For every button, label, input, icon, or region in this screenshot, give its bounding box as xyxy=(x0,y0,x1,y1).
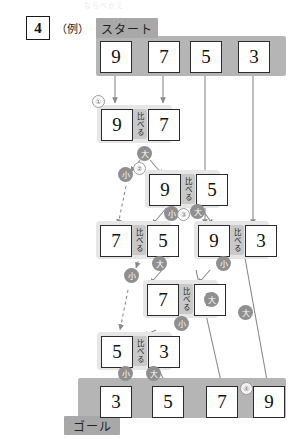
goal-cell-0: 3 xyxy=(100,386,132,418)
step-marker-2: ② xyxy=(133,162,146,175)
stage3a-compare-tab: 比べる xyxy=(131,225,146,255)
stage4-small-token-left: 小 xyxy=(124,268,139,283)
stage3a-big-token: 大 xyxy=(152,256,167,271)
stage3b-small-token: 小 xyxy=(216,256,231,271)
start-cell-3: 3 xyxy=(238,41,270,73)
step-marker-1: ① xyxy=(92,95,105,108)
stage5-small-token: 小 xyxy=(118,366,133,381)
stage2-compare-tab: 比べる xyxy=(180,174,195,204)
stage3a-compare-label: 比べる xyxy=(134,228,143,252)
stage3a-right-cell: 5 xyxy=(147,225,179,257)
goal-label: ゴール xyxy=(64,416,120,435)
stage5-big-token: 大 xyxy=(146,366,161,381)
stage1-left-cell: 9 xyxy=(101,109,133,141)
stage3a-left-cell: 7 xyxy=(100,225,132,257)
stage2-left-cell: 9 xyxy=(149,174,181,206)
stage5-left-cell: 5 xyxy=(101,336,133,368)
goal-cell-3: 9 xyxy=(253,386,285,418)
stage5-compare-label: 比べる xyxy=(135,339,144,363)
stage5-right-cell: 3 xyxy=(148,336,180,368)
stage4-left-cell: 7 xyxy=(147,284,179,316)
stage2-big-token: 大 xyxy=(190,204,205,219)
stage4-compare-label: 比べる xyxy=(181,287,190,311)
stage1-big-token: 大 xyxy=(137,146,152,161)
start-cell-1: 7 xyxy=(148,41,180,73)
stage2-compare-label: 比べる xyxy=(183,177,192,201)
start-cell-0: 9 xyxy=(100,41,132,73)
stage3b-right-cell: 3 xyxy=(245,225,277,257)
stage1-small-token: 小 xyxy=(118,167,133,182)
step-marker-4: ④ xyxy=(240,382,253,395)
start-label: スタート xyxy=(96,18,158,38)
stage5-compare-tab: 比べる xyxy=(132,336,147,366)
diagram-canvas: ならべかえ 4 （例） xyxy=(0,0,295,438)
stage1-compare-label: 比べる xyxy=(135,112,144,136)
stage4-compare-tab: 比べる xyxy=(178,284,193,314)
stage1-compare-tab: 比べる xyxy=(132,109,147,139)
step-marker-3: ③ xyxy=(177,208,190,221)
goal-cell-2: 7 xyxy=(206,386,238,418)
start-cell-2: 5 xyxy=(190,41,222,73)
stage2-right-cell: 5 xyxy=(196,174,228,206)
goal-cell-1: 5 xyxy=(152,386,184,418)
stage3b-compare-tab: 比べる xyxy=(229,225,244,255)
stage1-right-cell: 7 xyxy=(148,109,180,141)
stage3b-compare-label: 比べる xyxy=(232,228,241,252)
stage4-small-token: 小 xyxy=(174,316,189,331)
stage4-big-token: 大 xyxy=(204,292,219,307)
stage3b-left-cell: 9 xyxy=(198,225,230,257)
long-wire-big-token: 大 xyxy=(238,305,253,320)
